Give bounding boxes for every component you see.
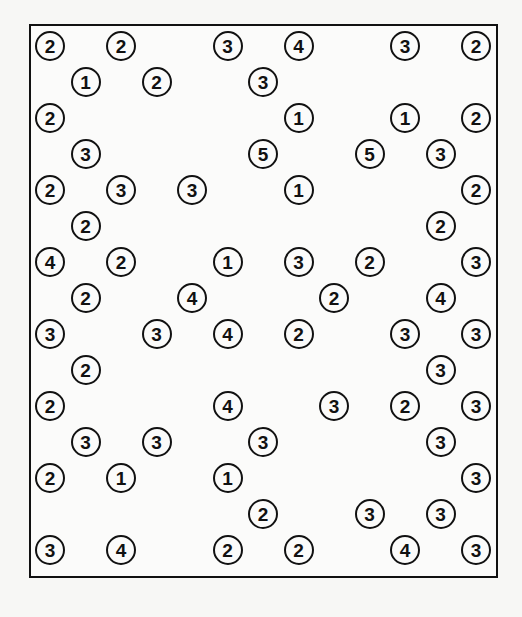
island-node[interactable]: 3	[355, 499, 385, 529]
island-node[interactable]: 3	[461, 391, 491, 421]
puzzle-board: 2234321232112355323312224213232424334233…	[29, 24, 498, 578]
island-node[interactable]: 4	[390, 535, 420, 565]
island-node[interactable]: 1	[213, 463, 243, 493]
island-node[interactable]: 2	[461, 103, 491, 133]
island-node[interactable]: 3	[284, 247, 314, 277]
island-node[interactable]: 3	[461, 535, 491, 565]
island-node[interactable]: 3	[248, 67, 278, 97]
island-node[interactable]: 2	[71, 211, 101, 241]
island-node[interactable]: 3	[213, 31, 243, 61]
island-node[interactable]: 2	[106, 31, 136, 61]
island-node[interactable]: 2	[71, 355, 101, 385]
island-node[interactable]: 2	[142, 67, 172, 97]
island-node[interactable]: 2	[35, 103, 65, 133]
island-node[interactable]: 2	[213, 535, 243, 565]
island-node[interactable]: 3	[426, 139, 456, 169]
island-node[interactable]: 3	[319, 391, 349, 421]
island-node[interactable]: 2	[35, 31, 65, 61]
island-node[interactable]: 2	[319, 283, 349, 313]
island-node[interactable]: 1	[213, 247, 243, 277]
island-node[interactable]: 1	[71, 67, 101, 97]
island-node[interactable]: 2	[390, 391, 420, 421]
island-node[interactable]: 1	[106, 463, 136, 493]
island-node[interactable]: 3	[142, 319, 172, 349]
island-node[interactable]: 3	[142, 427, 172, 457]
island-node[interactable]: 2	[284, 319, 314, 349]
island-node[interactable]: 2	[461, 175, 491, 205]
island-node[interactable]: 3	[390, 31, 420, 61]
island-node[interactable]: 4	[35, 247, 65, 277]
island-node[interactable]: 4	[106, 535, 136, 565]
island-node[interactable]: 3	[461, 247, 491, 277]
island-node[interactable]: 3	[390, 319, 420, 349]
island-node[interactable]: 1	[284, 103, 314, 133]
island-node[interactable]: 2	[284, 535, 314, 565]
island-node[interactable]: 2	[35, 463, 65, 493]
island-node[interactable]: 3	[71, 427, 101, 457]
island-node[interactable]: 4	[213, 319, 243, 349]
island-node[interactable]: 2	[106, 247, 136, 277]
island-node[interactable]: 4	[213, 391, 243, 421]
island-node[interactable]: 4	[284, 31, 314, 61]
island-node[interactable]: 3	[426, 427, 456, 457]
island-node[interactable]: 5	[248, 139, 278, 169]
island-node[interactable]: 3	[35, 319, 65, 349]
island-node[interactable]: 4	[426, 283, 456, 313]
island-node[interactable]: 3	[248, 427, 278, 457]
island-node[interactable]: 3	[177, 175, 207, 205]
island-node[interactable]: 2	[35, 391, 65, 421]
island-node[interactable]: 3	[35, 535, 65, 565]
island-node[interactable]: 5	[355, 139, 385, 169]
island-node[interactable]: 1	[284, 175, 314, 205]
island-node[interactable]: 3	[461, 319, 491, 349]
island-node[interactable]: 3	[426, 355, 456, 385]
island-node[interactable]: 2	[355, 247, 385, 277]
island-node[interactable]: 2	[71, 283, 101, 313]
island-node[interactable]: 2	[461, 31, 491, 61]
island-node[interactable]: 2	[35, 175, 65, 205]
island-node[interactable]: 3	[461, 463, 491, 493]
island-node[interactable]: 2	[248, 499, 278, 529]
island-node[interactable]: 1	[390, 103, 420, 133]
island-node[interactable]: 2	[426, 211, 456, 241]
island-node[interactable]: 3	[106, 175, 136, 205]
island-node[interactable]: 4	[177, 283, 207, 313]
island-node[interactable]: 3	[426, 499, 456, 529]
island-node[interactable]: 3	[71, 139, 101, 169]
